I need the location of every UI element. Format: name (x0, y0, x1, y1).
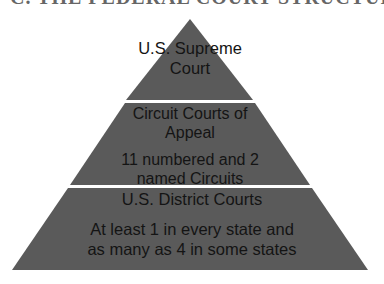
supreme-court-label: U.S. Supreme Court (120, 38, 260, 78)
tier-description-line: named Circuits (100, 169, 280, 188)
tier-label-line: Circuit Courts of (100, 104, 280, 123)
tier-label-line: U.S. District Courts (30, 190, 354, 209)
tier-label-line: Appeal (100, 123, 280, 142)
circuit-courts-description: 11 numbered and 2 named Circuits (100, 150, 280, 188)
tier-description-line: 11 numbered and 2 (100, 150, 280, 169)
district-courts-label: U.S. District Courts At least 1 in every… (30, 190, 354, 259)
district-courts-description: At least 1 in every state and as many as… (30, 219, 354, 259)
tier-description-line: At least 1 in every state and (30, 219, 354, 239)
tier-description-line: as many as 4 in some states (30, 239, 354, 259)
tier-label-line: U.S. Supreme (120, 38, 260, 58)
tier-label-line: Court (120, 58, 260, 78)
circuit-courts-label: Circuit Courts of Appeal 11 numbered and… (100, 104, 280, 188)
